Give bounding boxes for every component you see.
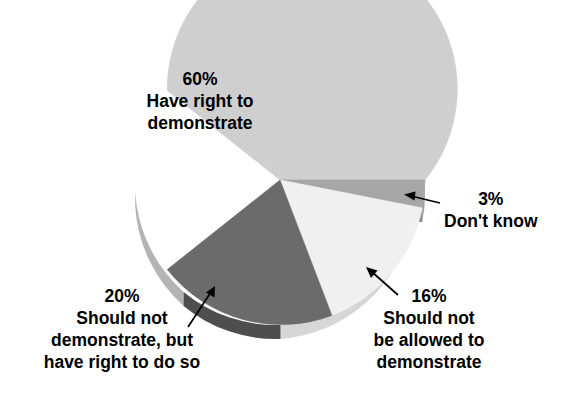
slice-16-line1: Should not <box>336 307 522 329</box>
slice-16-line3: demonstrate <box>336 351 522 373</box>
slice-60-percent: 60% <box>0 68 480 90</box>
slice-20-line1: Should not <box>16 307 228 329</box>
slice-label-20: 20% Should not demonstrate, but have rig… <box>16 285 228 373</box>
slice-16-percent: 16% <box>336 285 522 307</box>
slice-label-60: 60% Have right to demonstrate <box>0 68 480 134</box>
slice-20-percent: 20% <box>16 285 228 307</box>
slice-label-16: 16% Should not be allowed to demonstrate <box>336 285 522 373</box>
slice-20-line3: have right to do so <box>16 351 228 373</box>
slice-60-line1: Have right to <box>0 90 480 112</box>
pie-slices-layer <box>167 0 457 325</box>
pie-chart-figure: 60% Have right to demonstrate 3% Don't k… <box>0 0 570 407</box>
slice-3-line1: Don't know <box>444 210 538 232</box>
slice-20-line2: demonstrate, but <box>16 329 228 351</box>
slice-label-3: 3% Don't know <box>444 188 538 232</box>
slice-60-line2: demonstrate <box>0 112 480 134</box>
slice-16-line2: be allowed to <box>336 329 522 351</box>
slice-3-percent: 3% <box>444 188 538 210</box>
